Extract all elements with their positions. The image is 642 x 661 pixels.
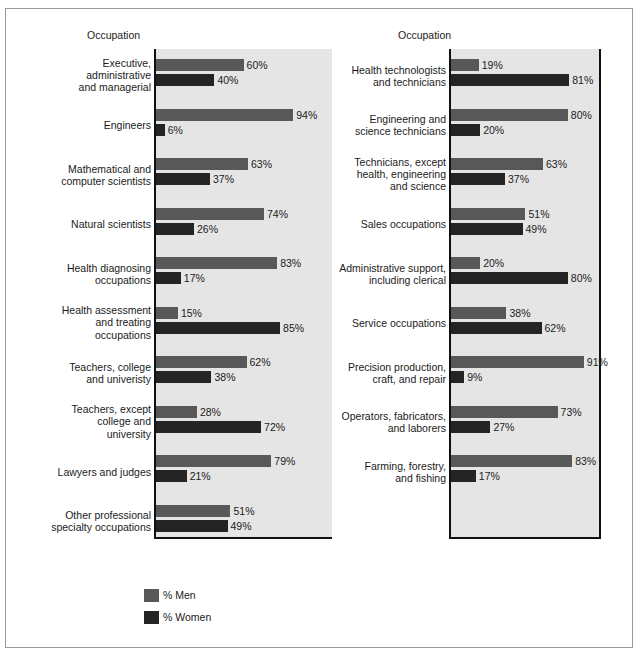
- bar-men[interactable]: [451, 109, 568, 121]
- bar-men[interactable]: [451, 257, 480, 269]
- bar-value-label: 83%: [277, 257, 301, 269]
- bar-group: Sales occupations51%49%: [451, 208, 599, 241]
- bar-men[interactable]: [156, 257, 277, 269]
- bar-value-label: 9%: [464, 371, 482, 383]
- bar-women[interactable]: [156, 322, 280, 334]
- bar-women[interactable]: [156, 371, 211, 383]
- category-label: Administrative support, including cleric…: [339, 261, 446, 286]
- bar-women[interactable]: [156, 421, 261, 433]
- bar-women[interactable]: [451, 421, 490, 433]
- category-label: Engineers: [104, 119, 151, 131]
- category-label: Health assessment and treating occupatio…: [62, 304, 151, 341]
- bar-women[interactable]: [451, 371, 464, 383]
- category-label: Operators, fabricators, and laborers: [342, 410, 446, 435]
- category-label: Service occupations: [352, 317, 446, 329]
- bar-value-label: 73%: [558, 406, 582, 418]
- bar-men[interactable]: [451, 158, 543, 170]
- bar-women[interactable]: [156, 223, 194, 235]
- panel-header-left: Occupation: [87, 29, 140, 41]
- bar-value-label: 20%: [480, 124, 504, 136]
- bar-value-label: 72%: [261, 421, 285, 433]
- bar-men[interactable]: [156, 158, 248, 170]
- legend-item-men: % Men: [144, 584, 211, 606]
- bar-men[interactable]: [451, 455, 572, 467]
- bar-value-label: 37%: [210, 173, 234, 185]
- bar-men[interactable]: [156, 59, 244, 71]
- bar-men[interactable]: [156, 505, 230, 517]
- bar-value-label: 60%: [244, 59, 268, 71]
- category-label: Natural scientists: [71, 218, 151, 230]
- plot-area-left: Executive, administrative and managerial…: [154, 49, 332, 539]
- legend-swatch-men-icon: [144, 589, 159, 602]
- bar-women[interactable]: [156, 124, 165, 136]
- bar-value-label: 17%: [476, 470, 500, 482]
- bar-group: Mathematical and computer scientists63%3…: [156, 158, 332, 191]
- legend-label-women: % Women: [163, 611, 211, 623]
- bar-group: Farming, forestry, and fishing83%17%: [451, 455, 599, 488]
- bar-men[interactable]: [451, 208, 525, 220]
- bar-value-label: 49%: [228, 520, 252, 532]
- bar-value-label: 91%: [584, 356, 608, 368]
- bar-women[interactable]: [451, 124, 480, 136]
- bar-men[interactable]: [156, 208, 264, 220]
- bar-women[interactable]: [451, 322, 542, 334]
- bar-women[interactable]: [156, 74, 214, 86]
- bar-women[interactable]: [156, 520, 228, 532]
- bar-group: Executive, administrative and managerial…: [156, 59, 332, 92]
- bar-value-label: 85%: [280, 322, 304, 334]
- bar-value-label: 79%: [271, 455, 295, 467]
- bar-women[interactable]: [156, 470, 187, 482]
- bar-value-label: 26%: [194, 223, 218, 235]
- category-label: Other professional specialty occupations: [51, 509, 151, 534]
- bar-value-label: 80%: [568, 109, 592, 121]
- bar-group: Engineers94%6%: [156, 109, 332, 142]
- bar-women[interactable]: [451, 223, 523, 235]
- panel-header-right: Occupation: [398, 29, 451, 41]
- bar-value-label: 63%: [248, 158, 272, 170]
- bar-group: Lawyers and judges79%21%: [156, 455, 332, 488]
- category-label: Precision production, craft, and repair: [348, 360, 446, 385]
- bar-men[interactable]: [156, 356, 247, 368]
- bar-women[interactable]: [451, 470, 476, 482]
- bar-group: Natural scientists74%26%: [156, 208, 332, 241]
- category-label: Engineering and science technicians: [355, 113, 446, 138]
- bar-group: Health diagnosing occupations83%17%: [156, 257, 332, 290]
- category-label: Teachers, college and univeristy: [69, 360, 151, 385]
- bar-value-label: 40%: [214, 74, 238, 86]
- bar-group: Teachers, except college and university2…: [156, 406, 332, 439]
- bar-men[interactable]: [451, 307, 506, 319]
- bar-value-label: 38%: [211, 371, 235, 383]
- bar-value-label: 63%: [543, 158, 567, 170]
- bar-group: Technicians, except health, engineering …: [451, 158, 599, 191]
- bar-value-label: 51%: [230, 505, 254, 517]
- bar-men[interactable]: [156, 406, 197, 418]
- category-label: Sales occupations: [361, 218, 446, 230]
- legend-item-women: % Women: [144, 606, 211, 628]
- bar-women[interactable]: [156, 272, 181, 284]
- bar-value-label: 62%: [247, 356, 271, 368]
- category-label: Health technologists and technicians: [351, 63, 446, 88]
- bar-group: Service occupations38%62%: [451, 307, 599, 340]
- bar-men[interactable]: [451, 356, 584, 368]
- bar-men[interactable]: [156, 109, 293, 121]
- bar-women[interactable]: [451, 74, 569, 86]
- bar-men[interactable]: [451, 59, 479, 71]
- bar-value-label: 83%: [572, 455, 596, 467]
- bar-women[interactable]: [451, 272, 568, 284]
- category-label: Technicians, except health, engineering …: [354, 156, 446, 193]
- bar-value-label: 28%: [197, 406, 221, 418]
- bar-value-label: 17%: [181, 272, 205, 284]
- bar-value-label: 38%: [506, 307, 530, 319]
- category-label: Health diagnosing occupations: [67, 261, 151, 286]
- bar-men[interactable]: [451, 406, 558, 418]
- bar-value-label: 20%: [480, 257, 504, 269]
- bar-men[interactable]: [156, 307, 178, 319]
- bar-women[interactable]: [451, 173, 505, 185]
- bar-value-label: 74%: [264, 208, 288, 220]
- bar-women[interactable]: [156, 173, 210, 185]
- bar-value-label: 27%: [490, 421, 514, 433]
- bar-value-label: 37%: [505, 173, 529, 185]
- bar-value-label: 15%: [178, 307, 202, 319]
- bar-men[interactable]: [156, 455, 271, 467]
- bar-group: Other professional specialty occupations…: [156, 505, 332, 538]
